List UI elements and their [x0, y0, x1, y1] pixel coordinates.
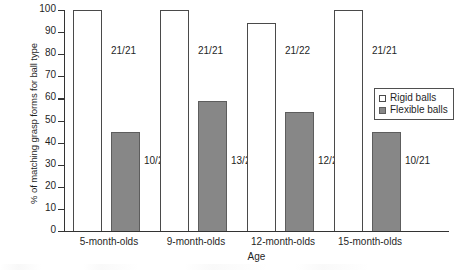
- legend-swatch-rigid-icon: [379, 95, 386, 102]
- legend-item-flexible-balls: Flexible balls: [379, 104, 448, 116]
- x-category-label-0: 5-month-olds: [61, 236, 157, 247]
- bar-rigid-0: [73, 10, 102, 231]
- bar-rigid-1: [160, 10, 189, 231]
- bar-flexible-3: [372, 132, 401, 232]
- legend-label-flexible: Flexible balls: [390, 104, 448, 116]
- x-axis-title: Age: [64, 251, 449, 262]
- scan-artifact: [0, 264, 462, 270]
- y-tick-label-20: 20: [45, 180, 56, 191]
- y-tick-label-50: 50: [45, 114, 56, 125]
- bar-note-flexible-3: 10/21: [405, 155, 430, 166]
- plot-area: 0 10 20 30 40 50 60 70 80 90 100: [64, 10, 386, 231]
- bar-rigid-3: [334, 10, 363, 231]
- legend-swatch-flexible-icon: [379, 107, 386, 114]
- legend: Rigid balls Flexible balls: [374, 88, 454, 120]
- x-axis-line: [64, 231, 449, 232]
- bar-note-rigid-2: 21/22: [285, 45, 310, 56]
- y-tick-label-60: 60: [45, 91, 56, 102]
- x-category-label-1: 9-month-olds: [148, 236, 244, 247]
- y-tick-label-80: 80: [45, 47, 56, 58]
- bar-flexible-1: [198, 101, 227, 231]
- bar-rigid-2: [247, 23, 276, 231]
- bar-flexible-2: [285, 112, 314, 231]
- bar-flexible-0: [111, 132, 140, 232]
- y-axis-line: [64, 10, 65, 231]
- bar-note-rigid-0: 21/21: [111, 45, 136, 56]
- bar-chart-figure: % of matching grasp forms for ball type …: [0, 0, 462, 272]
- y-tick-label-90: 90: [45, 25, 56, 36]
- y-tick-label-40: 40: [45, 136, 56, 147]
- bar-note-rigid-1: 21/21: [198, 45, 223, 56]
- y-tick-label-0: 0: [50, 224, 56, 235]
- y-axis-title: % of matching grasp forms for ball type: [28, 9, 39, 239]
- y-tick-label-100: 100: [39, 3, 56, 14]
- legend-label-rigid: Rigid balls: [390, 92, 436, 104]
- bar-note-rigid-3: 21/21: [372, 45, 397, 56]
- x-category-label-3: 15-month-olds: [320, 236, 420, 247]
- y-tick-label-10: 10: [45, 202, 56, 213]
- y-tick-label-70: 70: [45, 69, 56, 80]
- x-category-label-2: 12-month-olds: [233, 236, 333, 247]
- y-tick-label-30: 30: [45, 158, 56, 169]
- legend-item-rigid-balls: Rigid balls: [379, 92, 448, 104]
